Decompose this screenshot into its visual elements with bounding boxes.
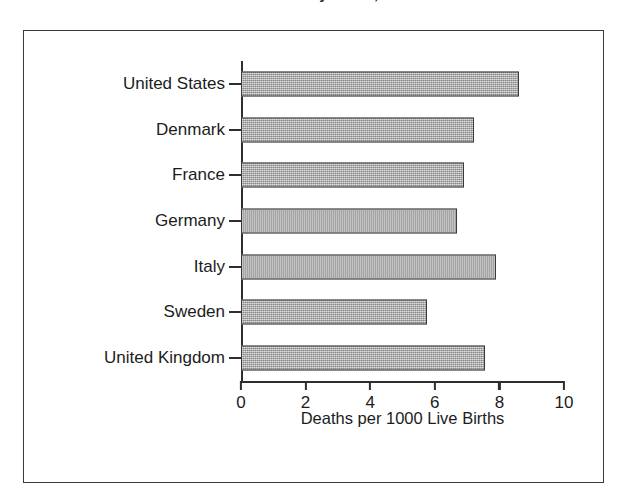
- bar-germany: [241, 208, 457, 233]
- x-axis-tick: [434, 381, 436, 390]
- x-axis-ticks: 0 2 4 6 8 10: [241, 381, 564, 411]
- y-axis-tick-label: Germany: [155, 211, 225, 231]
- figure-frame: United States Denmark France Germany: [23, 30, 604, 483]
- y-axis-tick: [229, 266, 241, 268]
- y-axis-tick-label: Denmark: [156, 120, 225, 140]
- bar-row: Sweden: [241, 289, 564, 335]
- y-axis-tick-label: Italy: [194, 257, 225, 277]
- chart-title-strip: Infant Mortality Rates, 1993: [0, 0, 634, 14]
- x-axis-tick: [304, 381, 306, 390]
- bar-row: United Kingdom: [241, 335, 564, 381]
- y-axis-tick: [229, 311, 241, 313]
- chart-title: Infant Mortality Rates, 1993: [0, 0, 634, 2]
- x-axis-tick: [498, 381, 500, 390]
- bar-sweden: [241, 300, 427, 325]
- bar-row: United States: [241, 61, 564, 107]
- bar-row: Italy: [241, 244, 564, 290]
- x-axis-title: Deaths per 1000 Live Births: [241, 409, 564, 428]
- bar-row: Germany: [241, 198, 564, 244]
- bar-france: [241, 163, 464, 188]
- bar-united-states: [241, 71, 519, 96]
- y-axis-tick-label: United States: [123, 74, 225, 94]
- y-axis-tick-label: Sweden: [164, 302, 225, 322]
- bar-row: Denmark: [241, 107, 564, 153]
- bar-denmark: [241, 117, 474, 142]
- x-axis-tick: [369, 381, 371, 390]
- y-axis-tick-label: France: [172, 165, 225, 185]
- y-axis-tick: [229, 174, 241, 176]
- bar-rows: United States Denmark France Germany: [241, 61, 564, 381]
- x-axis-tick: [563, 381, 565, 390]
- y-axis-tick: [229, 220, 241, 222]
- plot-area: United States Denmark France Germany: [241, 61, 564, 381]
- y-axis-tick: [229, 357, 241, 359]
- y-axis-tick: [229, 129, 241, 131]
- bar-united-kingdom: [241, 345, 485, 370]
- bar-italy: [241, 254, 496, 279]
- bar-row: France: [241, 152, 564, 198]
- y-axis-tick: [229, 83, 241, 85]
- y-axis-tick-label: United Kingdom: [104, 348, 225, 368]
- x-axis-tick: [240, 381, 242, 390]
